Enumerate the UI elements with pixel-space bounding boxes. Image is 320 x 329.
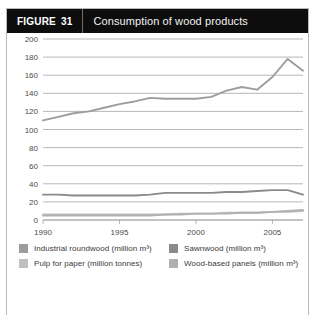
series-line: [43, 190, 303, 195]
legend-label-sawnwood: Sawnwood (million m³): [184, 244, 266, 253]
y-tick-label: 180: [25, 53, 39, 62]
chart-legend: Industrial roundwood (million m³) Sawnwo…: [19, 241, 301, 271]
y-tick-label: 120: [25, 107, 39, 116]
legend-label-pulp-for-paper: Pulp for paper (million tonnes): [34, 259, 142, 268]
y-tick-label: 100: [25, 126, 39, 135]
legend-swatch-industrial-roundwood: [19, 244, 28, 253]
y-tick-label: 140: [25, 89, 39, 98]
legend-label-wood-based-panels: Wood-based panels (million m³): [184, 259, 298, 268]
legend-swatch-wood-based-panels: [169, 259, 178, 268]
figure-header: FIGURE 31 Consumption of wood products: [7, 9, 308, 33]
figure-card: FIGURE 31 Consumption of wood products 0…: [6, 8, 309, 315]
y-tick-label: 20: [29, 198, 38, 207]
figure-tag-label: FIGURE: [17, 16, 56, 27]
x-tick-label: 2005: [264, 228, 282, 237]
figure-number: 31: [61, 16, 73, 27]
y-tick-label: 160: [25, 71, 39, 80]
y-tick-label: 40: [29, 180, 38, 189]
figure-body: 0204060801001201401601802001990199520002…: [7, 33, 308, 315]
y-tick-label: 80: [29, 144, 38, 153]
y-tick-label: 0: [34, 216, 39, 225]
y-tick-label: 60: [29, 162, 38, 171]
x-tick-label: 1990: [34, 228, 52, 237]
series-line: [43, 210, 303, 215]
line-chart: 0204060801001201401601802001990199520002…: [7, 33, 310, 245]
x-tick-label: 1995: [111, 228, 129, 237]
figure-title: Consumption of wood products: [83, 9, 248, 33]
legend-swatch-pulp-for-paper: [19, 259, 28, 268]
chart-plot-area: 0204060801001201401601802001990199520002…: [7, 33, 310, 245]
legend-item-pulp-for-paper: Pulp for paper (million tonnes): [19, 256, 169, 271]
figure-tag: FIGURE 31: [7, 9, 83, 33]
x-tick-label: 2000: [187, 228, 205, 237]
legend-item-sawnwood: Sawnwood (million m³): [169, 241, 301, 256]
y-tick-label: 200: [25, 35, 39, 44]
legend-label-industrial-roundwood: Industrial roundwood (million m³): [34, 244, 152, 253]
legend-item-wood-based-panels: Wood-based panels (million m³): [169, 256, 301, 271]
legend-item-industrial-roundwood: Industrial roundwood (million m³): [19, 241, 169, 256]
legend-swatch-sawnwood: [169, 244, 178, 253]
